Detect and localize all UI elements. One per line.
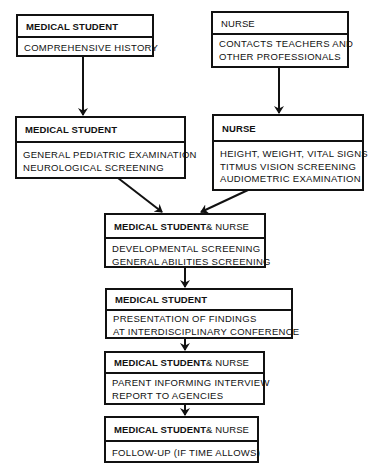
node-tasks: GENERAL PEDIATRIC EXAMINATION NEUROLOGIC… <box>17 143 184 174</box>
node-nurse-vitals: NURSE HEIGHT, WEIGHT, VITAL SIGNS TITMUS… <box>212 114 364 191</box>
node-role: MEDICAL STUDENT & NURSE <box>106 215 264 239</box>
node-both-interview: MEDICAL STUDENT & NURSE PARENT INFORMING… <box>104 351 265 405</box>
node-tasks: CONTACTS TEACHERS AND OTHER PROFESSIONAL… <box>213 35 347 63</box>
node-nurse-contacts: NURSE CONTACTS TEACHERS AND OTHER PROFES… <box>211 11 349 68</box>
node-tasks: PARENT INFORMING INTERVIEW REPORT TO AGE… <box>106 374 263 402</box>
node-both-followup: MEDICAL STUDENT & NURSE FOLLOW-UP (IF TI… <box>104 416 259 463</box>
node-role: NURSE <box>213 13 347 35</box>
node-ms-exam: MEDICAL STUDENT GENERAL PEDIATRIC EXAMIN… <box>15 116 186 179</box>
node-tasks: FOLLOW-UP (IF TIME ALLOWS) <box>106 442 257 460</box>
arrow-exam-to-screening <box>118 178 162 212</box>
node-both-screening: MEDICAL STUDENT & NURSE DEVELOPMENTAL SC… <box>104 213 266 268</box>
node-ms-presentation: MEDICAL STUDENT PRESENTATION OF FINDINGS… <box>105 288 293 339</box>
node-role: MEDICAL STUDENT <box>17 118 184 143</box>
node-tasks: PRESENTATION OF FINDINGS AT INTERDISCIPL… <box>107 311 291 338</box>
node-role: MEDICAL STUDENT & NURSE <box>106 418 257 442</box>
node-role: MEDICAL STUDENT <box>18 16 152 38</box>
node-tasks: DEVELOPMENTAL SCREENING GENERAL ABILITIE… <box>106 239 264 268</box>
node-role: MEDICAL STUDENT & NURSE <box>106 353 263 374</box>
node-tasks: HEIGHT, WEIGHT, VITAL SIGNS TITMUS VISIO… <box>214 142 362 186</box>
arrow-vitals-to-screening <box>201 190 248 212</box>
node-ms-history: MEDICAL STUDENT COMPREHENSIVE HISTORY <box>16 14 154 57</box>
node-tasks: COMPREHENSIVE HISTORY <box>18 38 152 55</box>
node-role: MEDICAL STUDENT <box>107 290 291 311</box>
node-role: NURSE <box>214 116 362 142</box>
